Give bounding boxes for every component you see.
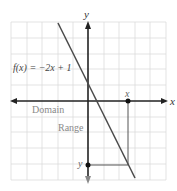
- coordinate-plane: [0, 0, 177, 191]
- x-axis-right-arrow-icon: [161, 98, 168, 104]
- domain-point-label: x: [125, 89, 129, 99]
- domain-point: [126, 99, 131, 104]
- x-axis-label: x: [170, 96, 175, 107]
- range-point: [86, 163, 91, 168]
- range-label: Range: [58, 123, 84, 133]
- y-axis: [85, 21, 91, 184]
- y-axis-label: y: [84, 9, 89, 20]
- function-label: f(x) = −2x + 1: [13, 63, 72, 73]
- domain-label: Domain: [32, 105, 64, 115]
- range-point-label: y: [78, 159, 82, 169]
- mapping-path: [88, 101, 128, 165]
